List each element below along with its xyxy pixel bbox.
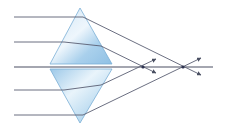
- near-focus-point: [141, 65, 144, 68]
- ray-group: [14, 17, 201, 115]
- far-focus-point: [181, 65, 184, 68]
- ray-1: [14, 17, 201, 75]
- diagram-canvas: [0, 0, 225, 129]
- prism-refraction-diagram: [0, 0, 225, 129]
- prism-upper: [50, 8, 112, 64]
